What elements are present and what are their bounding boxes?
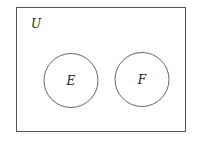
set-e-label: E xyxy=(66,74,76,88)
universe-label: U xyxy=(31,17,42,31)
set-f-label: F xyxy=(137,73,147,87)
venn-diagram: U E F xyxy=(0,0,197,141)
universe-rectangle xyxy=(17,8,186,132)
